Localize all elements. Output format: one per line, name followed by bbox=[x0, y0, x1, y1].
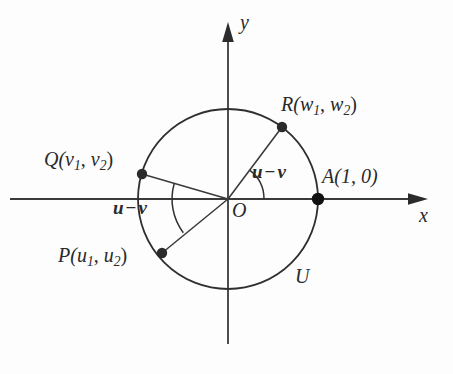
point-marker-R bbox=[277, 122, 287, 132]
origin-label: O bbox=[232, 200, 246, 220]
point-label-Q: Q(v1, v2) bbox=[44, 149, 113, 172]
diagram-canvas bbox=[0, 0, 453, 374]
unit-circle-figure: R(w1, w2) Q(v1, v2) P(u1, u2) A(1, 0) O … bbox=[0, 0, 453, 374]
point-label-A: A(1, 0) bbox=[322, 166, 378, 186]
point-label-R: R(w1, w2) bbox=[281, 94, 357, 117]
angle-label-right: u−v bbox=[252, 162, 286, 181]
x-axis bbox=[10, 193, 428, 205]
radius-segment-OQ bbox=[142, 174, 228, 199]
circle-label-U: U bbox=[295, 266, 309, 286]
x-axis-label: x bbox=[419, 205, 428, 225]
y-axis bbox=[222, 22, 234, 344]
point-marker-Q bbox=[137, 169, 147, 179]
y-axis-arrowhead bbox=[222, 22, 234, 42]
angle-arc-left bbox=[172, 184, 183, 233]
angle-label-left: u−v bbox=[113, 198, 147, 217]
point-label-P: P(u1, u2) bbox=[58, 245, 127, 268]
point-marker-P bbox=[157, 248, 167, 258]
y-axis-label: y bbox=[240, 12, 249, 32]
point-marker-A bbox=[312, 193, 324, 205]
